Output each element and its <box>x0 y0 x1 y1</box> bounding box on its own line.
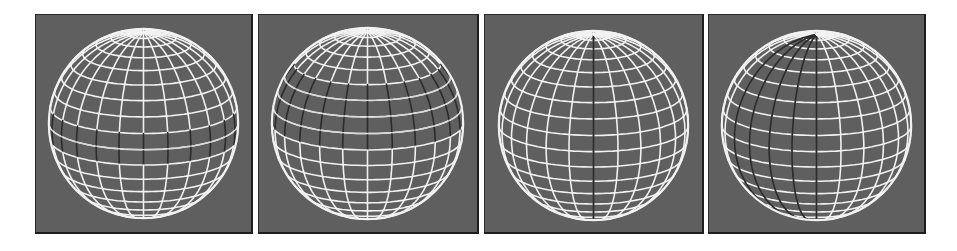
wire-line <box>860 68 868 82</box>
wire-line <box>839 166 840 180</box>
wireframe-sphere-icon <box>259 15 477 232</box>
wire-line <box>679 101 683 117</box>
wire-line <box>736 107 740 123</box>
wire-line <box>640 148 641 163</box>
wire-line <box>431 110 434 126</box>
wire-line <box>775 191 780 202</box>
wire-line <box>62 137 63 153</box>
wire-line <box>346 84 348 100</box>
wire-line <box>522 77 530 91</box>
wire-line <box>323 97 327 113</box>
wire-line <box>96 146 97 161</box>
wire-line <box>380 57 383 70</box>
wire-line <box>572 193 574 203</box>
wire-line <box>81 62 91 75</box>
wire-line <box>821 40 825 48</box>
wire-line <box>839 118 840 134</box>
wire-line <box>415 130 416 146</box>
wire-line <box>795 86 797 102</box>
wire-line <box>300 126 301 142</box>
wire-line <box>575 72 578 86</box>
wire-line <box>635 178 638 191</box>
wire-line <box>794 102 796 118</box>
panel-4-meridian-strip <box>708 14 926 234</box>
wire-line <box>301 158 304 173</box>
wire-line <box>615 102 617 118</box>
wire-line <box>162 191 164 201</box>
wire-line <box>188 162 190 176</box>
wire-line <box>434 126 435 142</box>
wire-line <box>166 44 177 54</box>
wire-line <box>770 164 772 178</box>
wire-line <box>196 62 206 75</box>
wire-line <box>625 42 639 50</box>
wire-line <box>343 165 344 179</box>
wire-line <box>769 132 770 148</box>
wire-line <box>863 132 864 148</box>
wire-line <box>673 86 680 101</box>
wire-line <box>399 39 414 47</box>
wire-line <box>91 51 103 62</box>
wire-line <box>185 51 197 62</box>
wire-line <box>531 96 536 112</box>
wire-line <box>324 53 334 65</box>
wire-line <box>398 68 404 82</box>
wire-line <box>512 139 513 155</box>
wire-line <box>77 142 78 157</box>
wire-line <box>296 74 304 88</box>
wire-line <box>656 77 664 91</box>
wire-line <box>894 107 898 123</box>
wire-line <box>853 84 858 99</box>
wire-line <box>630 191 635 202</box>
wire-line <box>229 99 233 115</box>
wire-line <box>107 68 113 82</box>
wire-line <box>897 139 898 155</box>
wire-line <box>386 192 388 203</box>
wire-line <box>102 82 107 97</box>
wire-line <box>659 144 660 159</box>
wire-line <box>546 148 547 163</box>
wireframe-sphere-icon <box>485 15 702 232</box>
wire-line <box>337 55 344 67</box>
wire-line <box>320 130 321 146</box>
wire-line <box>128 57 132 70</box>
wire-line <box>411 65 419 79</box>
wire-line <box>547 164 549 178</box>
wire-line <box>863 148 864 163</box>
wire-line <box>853 191 858 202</box>
wire-line <box>848 42 862 50</box>
wire-line <box>585 40 589 48</box>
wire-line <box>745 77 753 91</box>
wire-line <box>165 178 167 191</box>
wire-line <box>434 142 435 158</box>
wire-line <box>92 66 100 80</box>
wire-line <box>835 193 837 203</box>
wire-line <box>426 94 431 110</box>
wire-line <box>349 202 352 210</box>
wire-line <box>606 59 610 72</box>
wire-line <box>125 70 128 84</box>
wire-line <box>869 64 879 77</box>
wire-line <box>419 79 426 94</box>
wire-line <box>148 38 152 46</box>
sphere-wireframe-figure <box>0 0 957 251</box>
wire-line <box>386 84 388 100</box>
wire-line <box>838 180 840 193</box>
wire-line <box>598 40 602 48</box>
wire-line <box>119 116 120 132</box>
wire-line <box>86 79 93 94</box>
wire-line <box>331 68 337 82</box>
wire-line <box>646 64 656 77</box>
wire-line <box>174 68 180 82</box>
wire-line <box>850 56 860 68</box>
panel-2-upper-band <box>258 14 479 234</box>
panel-1-equator-band <box>35 14 253 234</box>
wire-line <box>96 130 97 146</box>
wire-line <box>62 121 63 137</box>
wire-line <box>794 180 796 193</box>
wire-line <box>125 201 128 209</box>
wire-line <box>156 57 160 70</box>
wire-line <box>195 79 202 94</box>
wire-line <box>798 72 801 86</box>
wire-line <box>569 118 570 134</box>
